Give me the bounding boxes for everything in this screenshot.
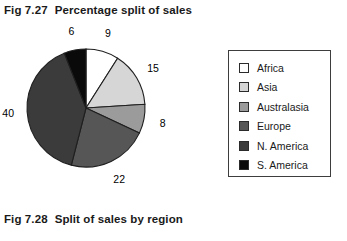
legend-item: Asia [239,78,331,98]
figure-title-bottom: Split of sales by region [55,213,183,225]
pie-slice-group [27,49,145,167]
legend-item-label: Australasia [257,102,309,113]
legend-swatch-icon [239,141,249,151]
legend-swatch-icon [239,102,249,112]
pie-value-label: 8 [160,117,166,129]
pie-value-label: 9 [105,27,111,39]
figure-caption-bottom: Fig 7.28Split of sales by region [4,213,183,225]
legend: AfricaAsiaAustralasiaEuropeN. AmericaS. … [228,50,331,177]
legend-item-label: S. America [257,160,308,171]
figure-number-top: Fig 7.27 [4,4,48,16]
figure-page: Fig 7.27Percentage split of sales 915822… [0,0,347,241]
pie-value-label: 6 [68,25,74,37]
legend-item: Africa [239,58,331,78]
legend-item-label: Asia [257,82,277,93]
legend-item: Europe [239,117,331,137]
pie-chart-svg [0,22,215,187]
legend-swatch-icon [239,160,249,170]
figure-title-top: Percentage split of sales [55,4,192,16]
legend-swatch-icon [239,121,249,131]
legend-item: S. America [239,156,331,176]
pie-value-label: 40 [2,107,14,119]
legend-item-label: N. America [257,141,308,152]
legend-item: Australasia [239,97,331,117]
legend-item-label: Africa [257,63,284,74]
legend-swatch-icon [239,82,249,92]
pie-chart: 915822406 [0,22,215,187]
legend-item-label: Europe [257,121,291,132]
figure-number-bottom: Fig 7.28 [4,213,48,225]
legend-items: AfricaAsiaAustralasiaEuropeN. AmericaS. … [239,58,331,175]
pie-value-label: 15 [147,62,159,74]
figure-caption-top: Fig 7.27Percentage split of sales [4,4,192,16]
legend-swatch-icon [239,63,249,73]
pie-value-label: 22 [113,173,125,185]
legend-item: N. America [239,136,331,156]
